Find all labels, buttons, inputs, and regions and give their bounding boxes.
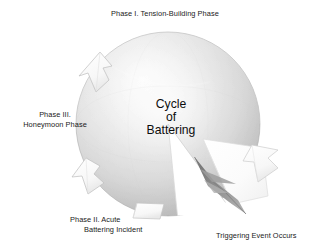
cycle-of-battering-figure: Cycle of Battering Phase I. Tension-Buil… [0, 0, 321, 248]
center-label-line1: Cycle [138, 98, 204, 111]
label-phase-two-line1: Phase II. Acute [70, 215, 165, 225]
label-phase-three-line1: Phase III. [13, 110, 97, 120]
label-phase-two: Phase II. Acute Battering Incident [70, 215, 165, 234]
label-phase-two-line2: Battering Incident [70, 225, 165, 235]
label-phase-three: Phase III. Honeymoon Phase [13, 110, 97, 129]
label-phase-one: Phase I. Tension-Building Phase [111, 9, 219, 19]
label-triggering-event: Triggering Event Occurs [216, 231, 297, 241]
center-label-line3: Battering [138, 124, 204, 137]
center-label: Cycle of Battering [138, 98, 204, 136]
label-phase-three-line2: Honeymoon Phase [13, 120, 97, 130]
center-label-line2: of [138, 111, 204, 124]
